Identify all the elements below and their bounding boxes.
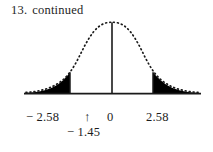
up-arrow-icon: ↑ [84, 109, 91, 125]
normal-curve-svg [0, 14, 213, 106]
left-tail-shading [24, 72, 70, 93]
label-right-critical: 2.58 [146, 110, 169, 125]
normal-curve-figure [0, 14, 213, 106]
axis-label-row: − 2.58 ↑ 0 2.58 − 1.45 [0, 108, 213, 152]
label-left-critical: − 2.58 [26, 110, 59, 125]
label-center: 0 [107, 110, 113, 125]
label-test-statistic: − 1.45 [67, 125, 100, 140]
figure-page: 13.continued − 2.58 ↑ 0 2.58 [0, 0, 213, 152]
right-tail-shading [153, 72, 200, 93]
